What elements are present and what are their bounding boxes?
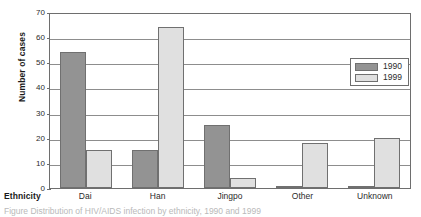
x-tick-label: Han — [121, 191, 193, 201]
chart-figure: Number of cases 010203040506070 1990 199… — [0, 0, 421, 217]
bar — [230, 178, 256, 188]
bar-groups — [50, 14, 410, 188]
bar — [60, 52, 86, 188]
bar — [204, 125, 230, 188]
x-tick-label: Jingpo — [194, 191, 266, 201]
x-tick-label: Unknown — [339, 191, 411, 201]
bar-group — [50, 14, 122, 188]
legend-swatch-1999 — [355, 74, 378, 82]
bar — [86, 150, 112, 188]
bar — [348, 186, 374, 189]
plot-area: 1990 1999 — [49, 13, 411, 189]
y-tick-label: 50 — [25, 59, 45, 67]
y-tick-label: 10 — [25, 160, 45, 168]
bar-group — [266, 14, 338, 188]
bar — [302, 143, 328, 188]
y-tick-label: 40 — [25, 84, 45, 92]
x-tick-label: Dai — [49, 191, 121, 201]
legend-item: 1990 — [355, 62, 402, 71]
x-axis-tick-labels: DaiHanJingpoOtherUnknown — [49, 191, 411, 201]
bar — [132, 150, 158, 188]
y-tick-label: 70 — [25, 9, 45, 17]
legend-label-1999: 1999 — [383, 73, 402, 82]
bar-group — [338, 14, 410, 188]
y-tick-label: 60 — [25, 34, 45, 42]
legend-item: 1999 — [355, 73, 402, 82]
y-axis-ticks: 010203040506070 — [21, 13, 45, 189]
figure-caption: Figure Distribution of HIV/AIDS infectio… — [4, 206, 417, 216]
bar-group — [194, 14, 266, 188]
y-tick-label: 30 — [25, 110, 45, 118]
bar-group — [122, 14, 194, 188]
legend-swatch-1990 — [355, 63, 378, 71]
x-axis-title: Ethnicity — [4, 191, 41, 201]
y-tick-mark — [47, 189, 51, 190]
bar — [158, 27, 184, 188]
legend-label-1990: 1990 — [383, 62, 402, 71]
x-tick-label: Other — [266, 191, 338, 201]
legend: 1990 1999 — [350, 58, 409, 86]
y-tick-label: 20 — [25, 135, 45, 143]
bar — [374, 138, 400, 188]
bar — [276, 186, 302, 189]
